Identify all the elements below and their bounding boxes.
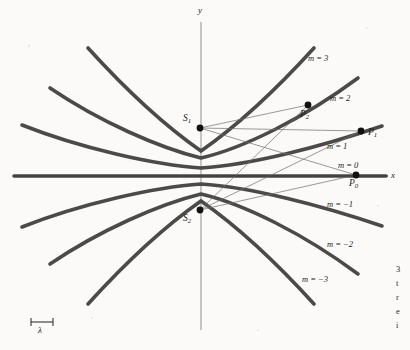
fringe-label-m3: m = 3 [308, 54, 328, 63]
figure-canvas [0, 0, 410, 350]
fringe-label-mm1: m = −1 [327, 200, 353, 209]
x-axis-label: x [391, 171, 395, 180]
source-label-s2: S2 [183, 214, 191, 225]
caption-fragment-line-5: i [396, 318, 410, 332]
interference-fringe-figure: y x S1 S2 P0 P1 P2 m = 3 m = 2 m = 1 m =… [0, 0, 410, 350]
fringe-label-mm2: m = −2 [327, 240, 353, 249]
point-label-p0: P0 [349, 179, 358, 190]
fringe-label-m1: m = 1 [327, 142, 347, 151]
point-label-p0-sub: 0 [355, 182, 358, 189]
fringe-label-m2: m = 2 [330, 94, 350, 103]
caption-fragment-line-4: e [396, 304, 410, 318]
point-label-p1: P1 [368, 128, 377, 139]
ray-lines [200, 105, 361, 210]
source-label-s1-sub: 1 [188, 117, 191, 124]
point-label-p2: P2 [300, 110, 309, 121]
source-dot-s1 [197, 125, 204, 132]
y-axis-label: y [198, 6, 202, 15]
scale-bar [31, 318, 53, 326]
fringe-label-m0: m = 0 [338, 161, 358, 170]
caption-fragment-line-3: r [396, 290, 410, 304]
source-dot-s2 [197, 207, 204, 214]
caption-fragment: 3 t r e i [396, 262, 410, 332]
scale-bar-label: λ [38, 326, 42, 335]
point-label-p1-sub: 1 [374, 131, 377, 138]
ray-s2-p2 [200, 105, 308, 210]
caption-fragment-line-2: t [396, 276, 410, 290]
caption-fragment-line-1: 3 [396, 262, 410, 276]
paper-texture [28, 27, 379, 331]
point-dot-p2 [305, 102, 312, 109]
point-dot-p1 [358, 128, 365, 135]
source-label-s2-sub: 2 [188, 217, 191, 224]
point-label-p2-sub: 2 [306, 113, 309, 120]
source-label-s1: S1 [183, 114, 191, 125]
fringe-label-mm3: m = −3 [302, 275, 328, 284]
